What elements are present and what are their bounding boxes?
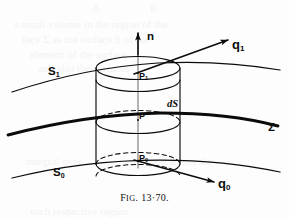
label-interface-sigma: Σ [268, 122, 275, 134]
label-flux-vector-q0: q0 [218, 177, 230, 190]
label-point-p: P [139, 112, 145, 121]
label-point-p0: P0 [139, 154, 148, 163]
figure-caption: FIG. 13·70. [0, 192, 289, 203]
figure-container: ABa small volume in the region of thefac… [0, 0, 289, 219]
label-point-p1: P1 [139, 72, 148, 81]
label-normal-vector: n [147, 31, 154, 43]
label-surface-s0: S0 [53, 167, 65, 179]
label-flux-vector-q1: q1 [232, 38, 244, 51]
flux-vector-q0-arrow [134, 160, 214, 182]
pillbox-diagram [0, 0, 289, 219]
label-area-element-ds: dS [167, 99, 178, 110]
label-surface-s1: S1 [48, 66, 60, 78]
